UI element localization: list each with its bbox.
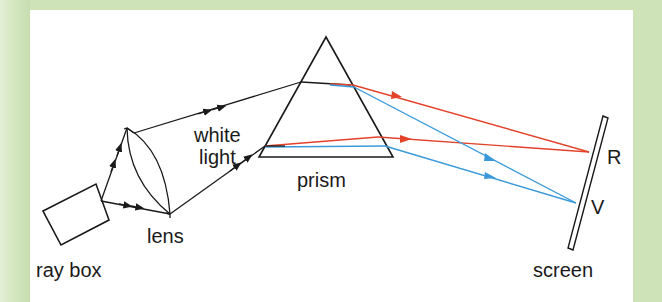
ray-box [43,184,109,245]
screen [568,116,608,250]
lens [124,128,170,218]
blue-ray-lower [385,146,576,203]
ray-box-label: ray box [36,259,102,281]
lens-label: lens [147,225,184,247]
red-ray-upper [353,85,589,152]
prism-label: prism [297,169,346,191]
dispersed-rays [353,85,589,203]
red-mark-label: R [607,146,621,168]
violet-mark-label: V [591,196,605,218]
blue-ray-upper [354,87,576,203]
light-label: light [199,146,236,168]
white-label: white [193,124,241,146]
prism-dispersion-diagram: white light lens ray box prism screen R … [0,0,662,302]
screen-label: screen [533,259,593,281]
